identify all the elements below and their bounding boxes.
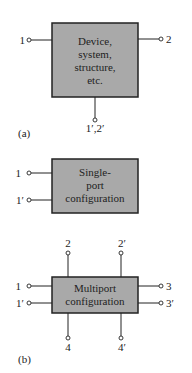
terminal-mp-3prime-icon xyxy=(159,301,163,305)
terminal-mp-2-label: 2 xyxy=(65,237,71,249)
terminal-mp-2prime-label: 2′ xyxy=(118,237,126,249)
panel-b-label: (b) xyxy=(18,353,31,366)
device-box-line-4: etc. xyxy=(87,74,103,86)
terminal-1-icon xyxy=(27,38,31,42)
terminal-2-label: 2 xyxy=(166,33,172,45)
terminal-mp-4-label: 4 xyxy=(65,341,71,353)
terminal-mp-3prime-label: 3′ xyxy=(166,297,174,309)
network-port-diagram: Device, system, structure, etc. 1 2 1′,2… xyxy=(0,0,192,373)
terminal-mp-1-icon xyxy=(27,284,31,288)
panel-a-label: (a) xyxy=(18,127,31,140)
terminal-ground-label: 1′,2′ xyxy=(86,122,105,134)
multiport-line-1: Multiport xyxy=(74,282,116,294)
single-port-line-3: configuration xyxy=(65,192,125,204)
single-port-line-2: port xyxy=(86,179,104,191)
terminal-mp-2prime-icon xyxy=(119,251,123,255)
terminal-sp-1prime-label: 1′ xyxy=(16,194,24,206)
terminal-mp-3-icon xyxy=(159,284,163,288)
terminal-sp-1-label: 1 xyxy=(16,167,22,179)
terminal-mp-3-label: 3 xyxy=(166,280,172,292)
device-box-line-1: Device, xyxy=(78,35,112,47)
terminal-1-label: 1 xyxy=(20,34,26,46)
single-port-panel: Single- port configuration 1 1′ xyxy=(16,159,139,213)
terminal-mp-1prime-label: 1′ xyxy=(16,297,24,309)
multiport-line-2: configuration xyxy=(65,295,125,307)
terminal-mp-1-label: 1 xyxy=(16,280,22,292)
terminal-2-icon xyxy=(159,37,163,41)
terminal-mp-1prime-icon xyxy=(27,301,31,305)
terminal-mp-2-icon xyxy=(66,251,70,255)
terminal-mp-4prime-label: 4′ xyxy=(118,341,126,353)
terminal-mp-4prime-icon xyxy=(119,336,123,340)
device-box-line-3: structure, xyxy=(74,61,115,73)
device-box-line-2: system, xyxy=(78,48,112,60)
multiport-panel: Multiport configuration 1 1′ 3 3′ 2 2′ 4… xyxy=(16,237,174,366)
terminal-sp-1prime-icon xyxy=(27,198,31,202)
single-port-line-1: Single- xyxy=(79,166,111,178)
terminal-sp-1-icon xyxy=(27,171,31,175)
terminal-mp-4-icon xyxy=(66,336,70,340)
panel-a: Device, system, structure, etc. 1 2 1′,2… xyxy=(18,23,172,140)
